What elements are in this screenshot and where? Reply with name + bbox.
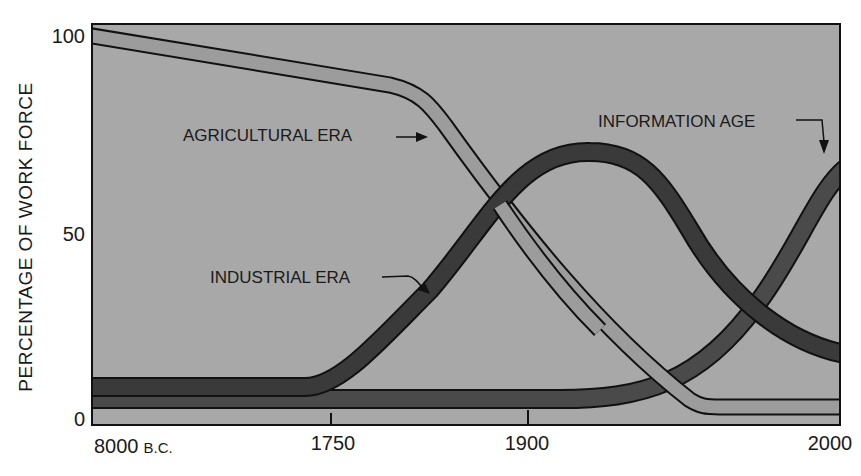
label-agricultural-era: AGRICULTURAL ERA bbox=[183, 126, 353, 145]
x-tick-label-1750: 1750 bbox=[311, 432, 356, 454]
chart: 100 50 0 PERCENTAGE OF WORK FORCE 8000B.… bbox=[0, 0, 861, 476]
y-tick-100: 100 bbox=[52, 25, 85, 47]
plot-area bbox=[92, 24, 840, 425]
y-axis-label: PERCENTAGE OF WORK FORCE bbox=[15, 82, 36, 391]
label-industrial-era: INDUSTRIAL ERA bbox=[210, 268, 351, 287]
x-tick-label-1900: 1900 bbox=[505, 432, 550, 454]
y-tick-0: 0 bbox=[74, 408, 85, 430]
x-tick-label-8000bc: 8000B.C. bbox=[94, 435, 173, 457]
label-information-age: INFORMATION AGE bbox=[598, 112, 755, 131]
y-tick-50: 50 bbox=[63, 223, 85, 245]
x-tick-label-2000: 2000 bbox=[808, 432, 853, 454]
